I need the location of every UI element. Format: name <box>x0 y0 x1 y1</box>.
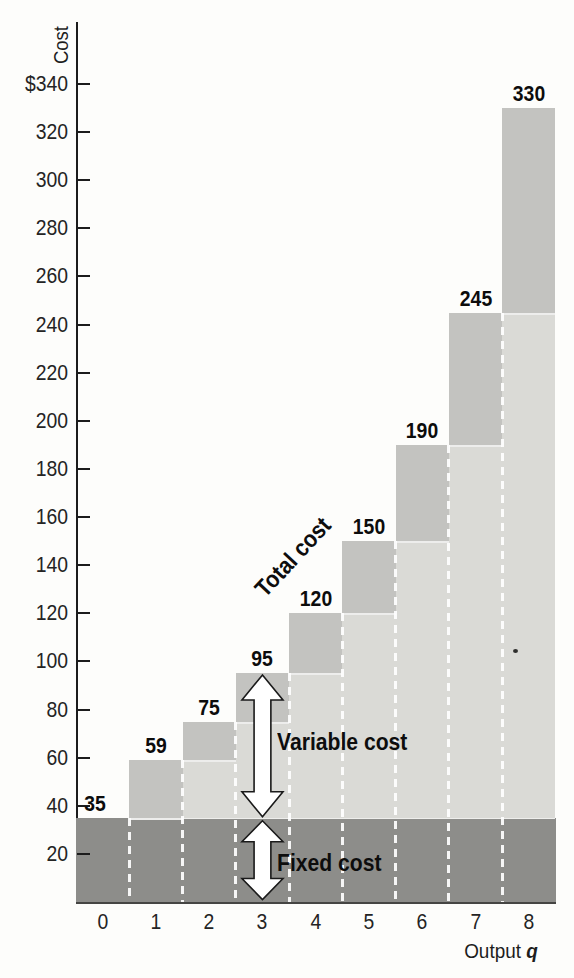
x-tick-label: 2 <box>190 909 229 935</box>
y-axis-tick <box>77 372 90 374</box>
y-axis-title: Cost <box>49 26 73 64</box>
bar-value-label: 120 <box>288 587 344 611</box>
bar-value-label: 150 <box>341 515 397 539</box>
bar-segment-variable <box>396 541 449 819</box>
y-tick-label: 280 <box>8 215 68 241</box>
y-axis-tick <box>77 179 90 181</box>
y-axis-tick <box>77 227 90 229</box>
y-tick-label: 140 <box>8 552 68 578</box>
y-axis-tick <box>77 83 90 85</box>
x-axis-variable: q <box>526 939 538 962</box>
y-tick-label: 300 <box>8 167 68 193</box>
bar-separator <box>394 541 397 902</box>
y-tick-label: 180 <box>8 456 68 482</box>
bar-separator <box>181 760 184 902</box>
y-axis-tick <box>77 468 90 470</box>
x-tick-label: 3 <box>243 909 282 935</box>
bar-segment-increment <box>502 108 555 315</box>
x-tick-label: 0 <box>83 909 122 935</box>
y-tick-label: $340 <box>8 71 68 97</box>
x-tick-label: 4 <box>296 909 335 935</box>
y-axis-tick <box>77 660 90 662</box>
y-axis-tick <box>77 612 90 614</box>
y-axis-tick <box>77 131 90 133</box>
total-cost-chart-figure: Cost 20406080100120140160180200220240260… <box>0 0 574 978</box>
y-axis-tick <box>77 564 90 566</box>
y-axis-tick <box>77 757 90 759</box>
bar-value-label: 95 <box>234 647 290 671</box>
y-axis-line <box>76 22 78 904</box>
bar-segment-variable <box>502 313 555 819</box>
y-tick-label: 40 <box>8 793 68 819</box>
y-tick-label: 160 <box>8 504 68 530</box>
x-tick-label: 1 <box>137 909 176 935</box>
bar-segment-increment <box>449 313 502 447</box>
variable-cost-annotation: Variable cost <box>277 729 407 755</box>
y-tick-label: 80 <box>8 697 68 723</box>
y-tick-label: 220 <box>8 360 68 386</box>
y-axis-tick <box>77 709 90 711</box>
bar-value-label: 245 <box>447 287 503 311</box>
bar-segment-increment <box>183 722 236 762</box>
bar-segment-variable <box>183 760 236 819</box>
bar-segment-variable <box>342 613 395 819</box>
y-tick-label: 260 <box>8 263 68 289</box>
y-axis-tick <box>77 853 90 855</box>
bar-separator <box>234 722 237 902</box>
bar-value-label: 75 <box>181 696 237 720</box>
bar-value-label: 59 <box>128 734 184 758</box>
bar-separator <box>501 313 504 902</box>
bar-value-label: 330 <box>501 82 557 106</box>
bar-segment-increment <box>289 613 342 675</box>
bar-segment-increment <box>236 673 289 723</box>
y-axis-tick <box>77 420 90 422</box>
x-axis-title-text: Output <box>464 939 521 962</box>
x-axis-title: Output q <box>464 938 538 964</box>
y-tick-label: 120 <box>8 600 68 626</box>
y-tick-label: 20 <box>8 841 68 867</box>
bar-segment-variable <box>449 445 502 819</box>
y-axis-tick <box>77 275 90 277</box>
y-axis-tick <box>77 324 90 326</box>
x-tick-label: 7 <box>456 909 495 935</box>
y-tick-label: 240 <box>8 312 68 338</box>
scan-speck <box>513 649 518 653</box>
x-tick-label: 8 <box>509 909 548 935</box>
y-tick-label: 320 <box>8 119 68 145</box>
x-tick-label: 5 <box>350 909 389 935</box>
y-tick-label: 100 <box>8 648 68 674</box>
y-tick-label: 200 <box>8 408 68 434</box>
bar-segment-increment <box>396 445 449 543</box>
x-tick-label: 6 <box>403 909 442 935</box>
bar-segment-increment <box>129 760 182 820</box>
bar-value-label: 35 <box>66 792 122 816</box>
bar-segment-increment <box>342 541 395 615</box>
bar-separator <box>128 818 131 902</box>
bar-separator <box>447 445 450 902</box>
fixed-cost-annotation: Fixed cost <box>277 850 381 876</box>
bar-value-label: 190 <box>394 419 450 443</box>
y-tick-label: 60 <box>8 745 68 771</box>
y-axis-tick <box>77 516 90 518</box>
